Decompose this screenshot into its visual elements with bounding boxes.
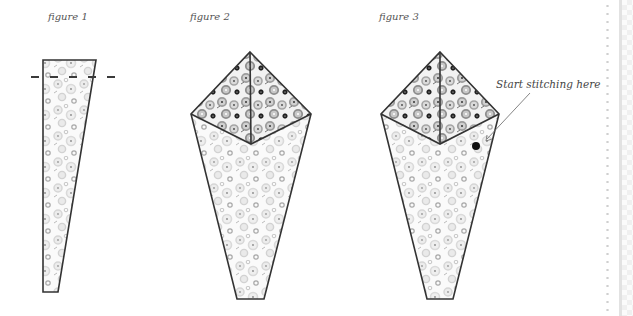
instruction-diagram: figure 1 figure 2 figure 3 Start stitchi…: [0, 0, 633, 316]
stitch-annotation: Start stitching here: [496, 78, 600, 90]
stitch-start-marker: [472, 142, 480, 150]
page-margin-dots: [606, 2, 609, 316]
figure-1-caption: figure 1: [47, 11, 88, 22]
figure-3-caption: figure 3: [378, 11, 419, 22]
figure-2-folded-cone: [191, 52, 311, 299]
page-edge-pattern: [622, 0, 633, 316]
figure-1-fabric-strip: [31, 60, 118, 292]
figure-2-caption: figure 2: [189, 11, 230, 22]
